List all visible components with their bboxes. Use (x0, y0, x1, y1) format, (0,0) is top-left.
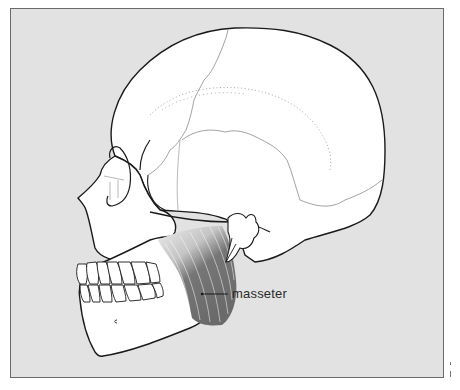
lower-teeth (80, 283, 163, 302)
page-margin-marks (449, 362, 453, 382)
masseter-label: masseter (232, 286, 287, 301)
skull-illustration (0, 0, 460, 390)
upper-teeth (77, 262, 160, 284)
masseter-leader-dot (201, 293, 203, 295)
